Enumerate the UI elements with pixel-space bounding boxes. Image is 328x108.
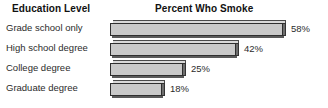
plot-area: Grade school only 58% High school degree…	[0, 19, 328, 108]
smoking-by-education-chart: Education Level Percent Who Smoke Grade …	[0, 0, 328, 108]
bar-graduate-degree	[110, 80, 166, 98]
bar-front-face	[110, 83, 162, 96]
category-label: High school degree	[6, 42, 104, 53]
bar-front-face	[110, 63, 183, 76]
bar-row: College degree 25%	[0, 59, 328, 79]
bar-front-face	[110, 23, 283, 36]
bar-row: Grade school only 58%	[0, 19, 328, 39]
bar-value-label: 18%	[170, 83, 189, 94]
category-label: Graduate degree	[6, 82, 104, 93]
bar-row: High school degree 42%	[0, 39, 328, 59]
bar-high-school-degree	[110, 40, 240, 58]
bar-row: Graduate degree 18%	[0, 79, 328, 99]
bar-grade-school-only	[110, 20, 287, 38]
bar-college-degree	[110, 60, 187, 78]
education-level-header: Education Level	[12, 3, 90, 14]
bar-value-label: 58%	[291, 23, 310, 34]
bar-shadow	[112, 76, 184, 78]
bar-front-face	[110, 43, 236, 56]
percent-who-smoke-header: Percent Who Smoke	[155, 3, 253, 14]
bar-shadow	[112, 36, 284, 38]
bar-value-label: 42%	[244, 43, 263, 54]
category-label: College degree	[6, 62, 104, 73]
bar-shadow	[112, 96, 163, 98]
bar-value-label: 25%	[191, 63, 210, 74]
bar-shadow	[112, 56, 237, 58]
category-label: Grade school only	[6, 22, 104, 33]
